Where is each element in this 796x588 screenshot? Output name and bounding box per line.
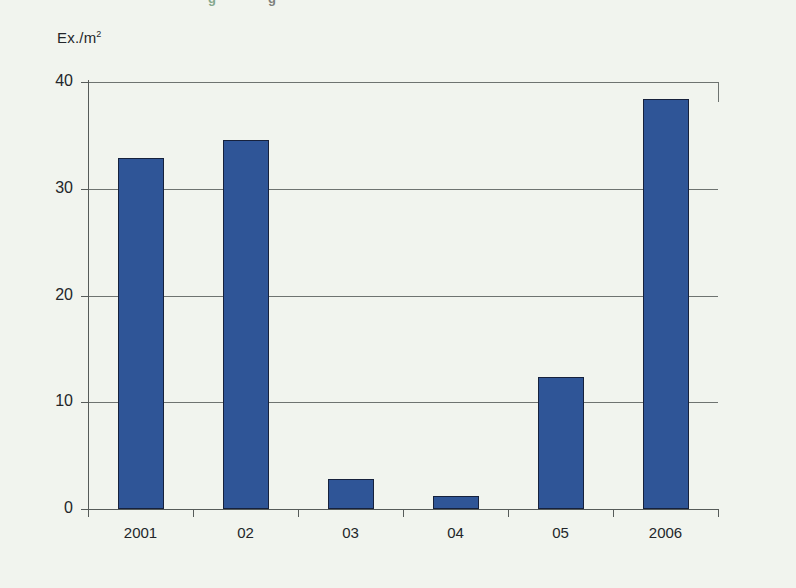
x-tick-6	[718, 509, 719, 517]
bar-2001	[118, 158, 164, 509]
bar-02	[223, 140, 269, 509]
y-tick-30	[81, 189, 88, 190]
bar-03	[328, 479, 374, 509]
y-tick-label-40: 40	[33, 72, 73, 90]
heading-fragment-dark: g	[268, 0, 276, 6]
x-label-05: 05	[508, 524, 613, 541]
x-tick-4	[508, 509, 509, 517]
x-label-2006: 2006	[613, 524, 718, 541]
y-tick-label-20: 20	[33, 286, 73, 304]
x-tick-3	[403, 509, 404, 517]
bar-04	[433, 496, 479, 509]
y-axis-line	[88, 80, 89, 511]
plot-area	[88, 82, 718, 509]
y-tick-label-10: 10	[33, 392, 73, 410]
x-tick-5	[613, 509, 614, 517]
cut-off-heading-remnant: g g	[0, 0, 796, 8]
gridline-10	[88, 402, 718, 403]
y-axis-title-superscript: 2	[96, 29, 101, 39]
y-tick-label-0: 0	[33, 499, 73, 517]
bar-05	[538, 377, 584, 509]
x-label-2001: 2001	[88, 524, 193, 541]
heading-fragment-green: g	[208, 0, 216, 6]
x-tick-1	[193, 509, 194, 517]
x-label-02: 02	[193, 524, 298, 541]
gridline-20	[88, 296, 718, 297]
gridline-30	[88, 189, 718, 190]
y-tick-0	[81, 509, 88, 510]
y-tick-40	[81, 82, 88, 83]
x-label-03: 03	[298, 524, 403, 541]
x-tick-0	[88, 509, 89, 517]
x-label-04: 04	[403, 524, 508, 541]
y-tick-10	[81, 402, 88, 403]
y-tick-20	[81, 296, 88, 297]
bar-2006	[643, 99, 689, 509]
y-tick-label-30: 30	[33, 179, 73, 197]
plot-frame-right	[718, 82, 719, 102]
gridline-40	[88, 82, 718, 83]
y-axis-tick-labels: 40 30 20 10 0	[28, 0, 73, 588]
x-tick-2	[298, 509, 299, 517]
